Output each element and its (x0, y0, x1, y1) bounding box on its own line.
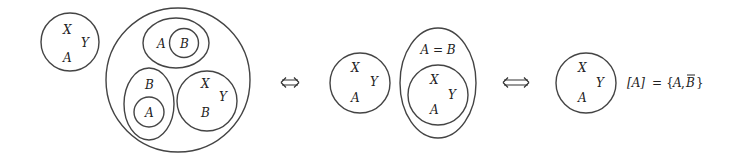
label-y: Y (370, 75, 379, 89)
label-x: X (350, 61, 360, 75)
equation-comma: , (681, 76, 685, 90)
panel2-circle: X Y A (330, 53, 390, 113)
lhs: [A] (627, 76, 645, 90)
bottom-left-inner-label-a: A (144, 106, 154, 120)
label-y: Y (81, 36, 90, 50)
label-x: X (62, 23, 72, 37)
bottom-right-label-x: X (200, 77, 210, 91)
equation-close-brace: } (696, 76, 704, 90)
bottom-left-label-b: B (144, 78, 154, 92)
inner-label-a: A (429, 103, 439, 117)
panel1-lone-circle: X Y A (41, 13, 99, 71)
bottom-right-label-b: B (200, 106, 210, 120)
bottom-right-label-y: Y (219, 90, 228, 104)
equivalence-diagram: X Y A A B B A X Y B (0, 0, 736, 159)
label-a-equals-b: A = B (419, 43, 455, 57)
label-y: Y (596, 76, 605, 90)
label-a: A (350, 91, 360, 105)
top-ellipse-label-a: A (156, 37, 166, 51)
label-a: A (577, 91, 587, 105)
panel2-tall-ellipse: A = B X Y A (400, 28, 476, 138)
panel1-big-circle: A B B A X Y B (106, 8, 250, 152)
inner-label-x: X (429, 73, 439, 87)
label-a: A (62, 51, 72, 65)
top-ellipse-group: A B (143, 18, 209, 68)
equation-elem-b-bar: B (685, 76, 695, 90)
label-x: X (577, 61, 587, 75)
circle-shape (330, 53, 390, 113)
bottom-right-circle-group: X Y B (177, 71, 237, 131)
equation-equals: = (652, 76, 662, 90)
double-arrow-icon-1 (281, 78, 299, 88)
top-inner-label-b: B (179, 37, 189, 51)
panel3-circle: X Y A (556, 53, 616, 113)
equivalence-class-equation: [A] = { A , B } (627, 75, 704, 90)
bottom-left-ellipse-group: B A (124, 68, 174, 140)
double-arrow-icon-2 (503, 78, 529, 88)
inner-label-y: Y (448, 88, 457, 102)
equation-lhs: [A] (627, 76, 645, 90)
